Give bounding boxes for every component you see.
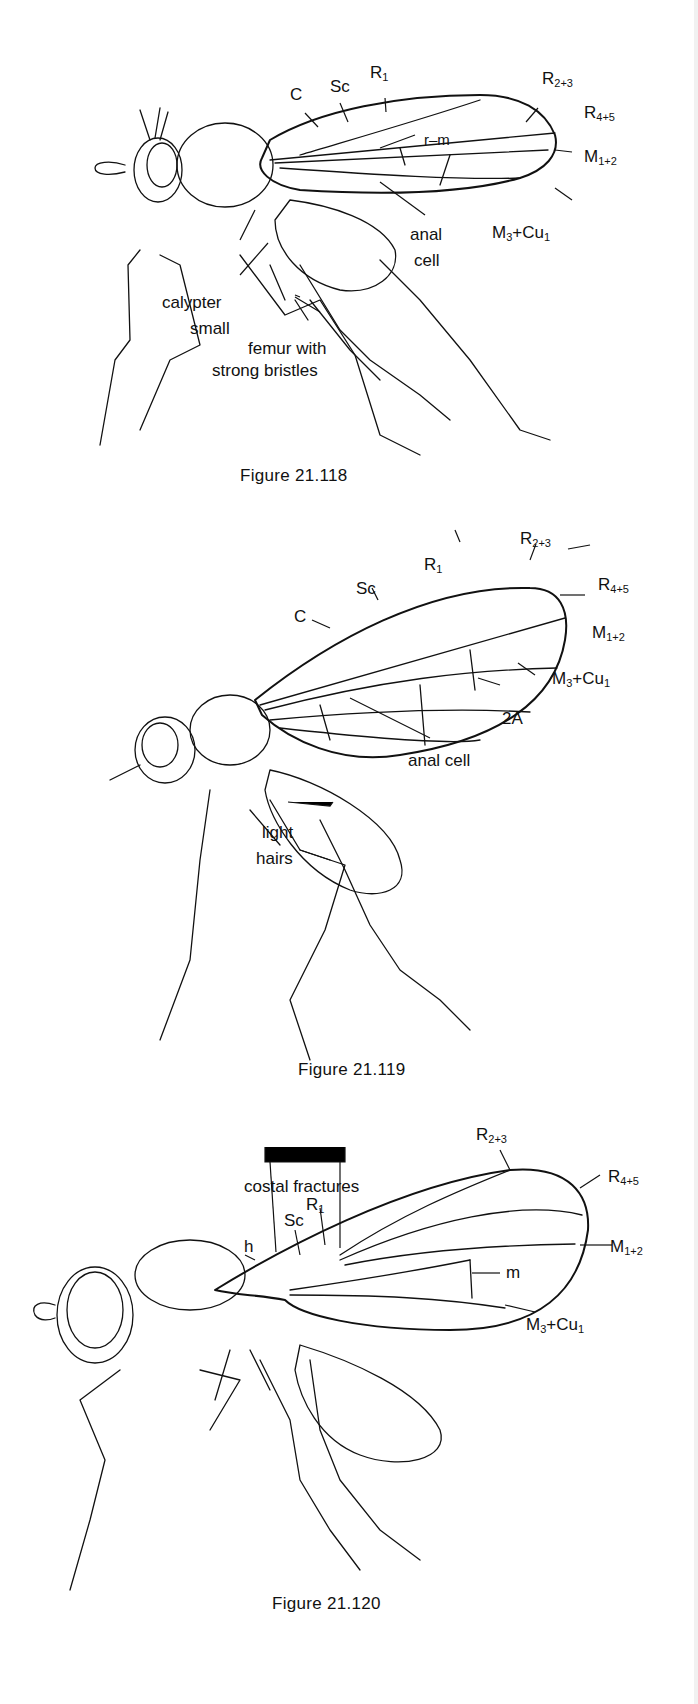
caption-figure-21-118: Figure 21.118 [240, 466, 348, 486]
figure-21-118: C Sc R1 R2+3 R4+5 r–m M1+2 M3+Cu1 anal c… [0, 0, 698, 490]
label-R1: R1 [306, 1196, 324, 1215]
label-R4+5: R4+5 [584, 104, 615, 123]
label-m: m [506, 1264, 520, 1281]
label-anal: anal [410, 226, 442, 243]
label-M3+Cu1: M3+Cu1 [492, 224, 550, 243]
label-small: small [190, 320, 230, 337]
label-M3+Cu1: M3+Cu1 [526, 1316, 584, 1335]
label-r-m: r–m [424, 132, 450, 147]
label-Sc: Sc [356, 580, 376, 597]
label-costal-fractures: costal fractures [244, 1178, 359, 1195]
fly-illustration-2 [0, 500, 698, 1100]
label-anal-cell: anal cell [408, 752, 470, 769]
label-Sc: Sc [284, 1212, 304, 1229]
label-R1: R1 [424, 556, 442, 575]
figure-21-120: R2+3 costal fractures R4+5 R1 Sc M1+2 h … [0, 1100, 698, 1704]
label-R2+3: R2+3 [476, 1126, 507, 1145]
label-C: C [294, 608, 306, 625]
caption-figure-21-119: Figure 21.119 [298, 1060, 406, 1080]
label-M1+2: M1+2 [584, 148, 617, 167]
label-calypter: calypter [162, 294, 222, 311]
label-R1: R1 [370, 64, 388, 83]
label-hairs: hairs [256, 850, 293, 867]
page-edge [694, 0, 698, 1704]
fly-illustration-1 [0, 0, 698, 490]
label-R4+5: R4+5 [598, 576, 629, 595]
label-strong-bristles: strong bristles [212, 362, 318, 379]
label-Sc: Sc [330, 78, 350, 95]
label-2A: 2A [502, 710, 523, 727]
label-cell: cell [414, 252, 440, 269]
label-R2+3: R2+3 [520, 530, 551, 549]
label-R2+3: R2+3 [542, 70, 573, 89]
caption-figure-21-120: Figure 21.120 [272, 1594, 381, 1614]
label-light: light [262, 824, 293, 841]
label-M3+Cu1: M3+Cu1 [552, 670, 610, 689]
label-C: C [290, 86, 302, 103]
figure-21-119: R2+3 R1 R4+5 Sc C M1+2 M3+Cu1 2A anal ce… [0, 500, 698, 1100]
label-M1+2: M1+2 [592, 624, 625, 643]
label-R4+5: R4+5 [608, 1168, 639, 1187]
label-h: h [244, 1238, 253, 1255]
label-femur-with: femur with [248, 340, 326, 357]
label-M1+2: M1+2 [610, 1238, 643, 1257]
